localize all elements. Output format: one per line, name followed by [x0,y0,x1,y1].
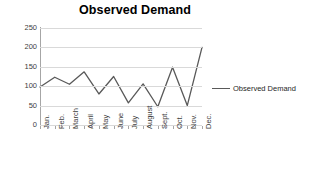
y-axis-tick-label: 100 [3,82,37,90]
x-axis-tick-mark [69,126,70,129]
legend-label-observed-demand: Observed Demand [233,84,296,93]
gridline [40,106,202,107]
y-axis-tick-label: 50 [3,102,37,110]
x-axis-tick-mark [92,126,93,129]
plot-area [40,28,202,125]
x-axis-tick-mark [180,126,181,129]
chart-legend: Observed Demand [212,84,296,93]
x-axis-tick-mark [40,126,41,129]
x-axis-tick-mark [150,126,151,129]
y-axis-tick-labels: 050100150200250 [0,0,37,170]
x-axis-tick-mark [99,126,100,129]
series-observed-demand [40,28,202,125]
gridline [40,67,202,68]
x-axis-tick-mark [165,126,166,129]
x-axis-tick-mark [143,126,144,129]
x-axis-tick-mark [158,126,159,129]
x-axis-tick-mark [77,126,78,129]
x-axis-tick-mark [128,126,129,129]
series-line-observed-demand [40,47,202,106]
chart-container: Observed Demand 050100150200250 Jan.Feb.… [0,0,317,170]
legend-line-swatch [212,88,230,89]
x-axis-tick-mark [106,126,107,129]
y-axis-tick-label: 200 [3,43,37,51]
gridline [40,28,202,29]
x-axis-tick-label: Dec. [205,114,213,129]
gridline [40,47,202,48]
x-axis-tick-mark [114,126,115,129]
x-axis-tick-mark [62,126,63,129]
x-axis-tick-mark [202,126,203,129]
x-axis-tick-mark [187,126,188,129]
chart-title: Observed Demand [0,3,270,17]
y-axis-tick-label: 0 [3,121,37,129]
x-axis-tick-mark [121,126,122,129]
x-axis-tick-mark [55,126,56,129]
x-axis-tick-mark [84,126,85,129]
x-axis-tick-mark [195,126,196,129]
x-axis-tick-mark [136,126,137,129]
gridline [40,86,202,87]
x-axis-tick-mark [173,126,174,129]
x-axis-tick-labels: Jan.Feb.MarchAprilMayJuneJulyAugustSept.… [40,129,202,170]
y-axis-tick-label: 250 [3,24,37,32]
x-axis-tick-mark [47,126,48,129]
y-axis-tick-label: 150 [3,63,37,71]
